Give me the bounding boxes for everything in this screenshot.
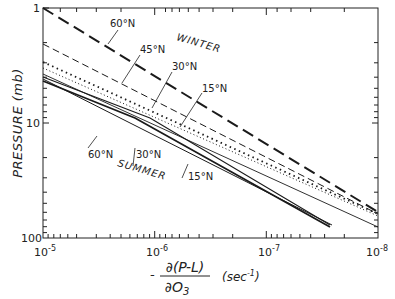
x-tick-labels: 10-5 10-6 10-7 10-8 (34, 244, 388, 259)
y-tick-10: 10 (26, 117, 40, 130)
label-summer-15n: 15°N (188, 171, 213, 182)
label-summer-30n: 30°N (136, 149, 161, 160)
x-axis-label: - ∂(P-L) ∂O3 (sec-1) (150, 259, 260, 297)
line-summer-60n-b (43, 79, 332, 225)
x-tick-1e-7: 10-7 (258, 244, 280, 259)
x-tick-1e-5: 10-5 (34, 244, 56, 259)
y-axis-label: PRESSURE (mb) (10, 68, 25, 178)
y-tick-1: 1 (33, 2, 40, 15)
x-label-numerator: ∂(P-L) (166, 259, 205, 275)
label-summer-60n: 60°N (88, 149, 113, 160)
line-winter-45n (43, 44, 378, 214)
label-winter-30n: 30°N (172, 61, 197, 72)
label-winter: WINTER (175, 31, 222, 54)
x-tick-1e-6: 10-6 (146, 244, 168, 259)
chart: 1 10 100 10-5 10-6 10-7 10-8 PRESSURE (m… (0, 0, 395, 299)
label-winter-15n: 15°N (202, 83, 227, 94)
x-label-units: (sec-1) (222, 269, 260, 284)
x-label-denominator: ∂O3 (165, 279, 190, 297)
x-label-minus: - (150, 267, 155, 282)
label-winter-45n: 45°N (140, 44, 165, 55)
x-tick-1e-8: 10-8 (366, 244, 388, 259)
label-summer: SUMMER (116, 157, 167, 181)
y-tick-100: 100 (21, 232, 42, 245)
line-summer-60n (43, 81, 330, 227)
label-winter-60n: 60°N (110, 18, 135, 29)
